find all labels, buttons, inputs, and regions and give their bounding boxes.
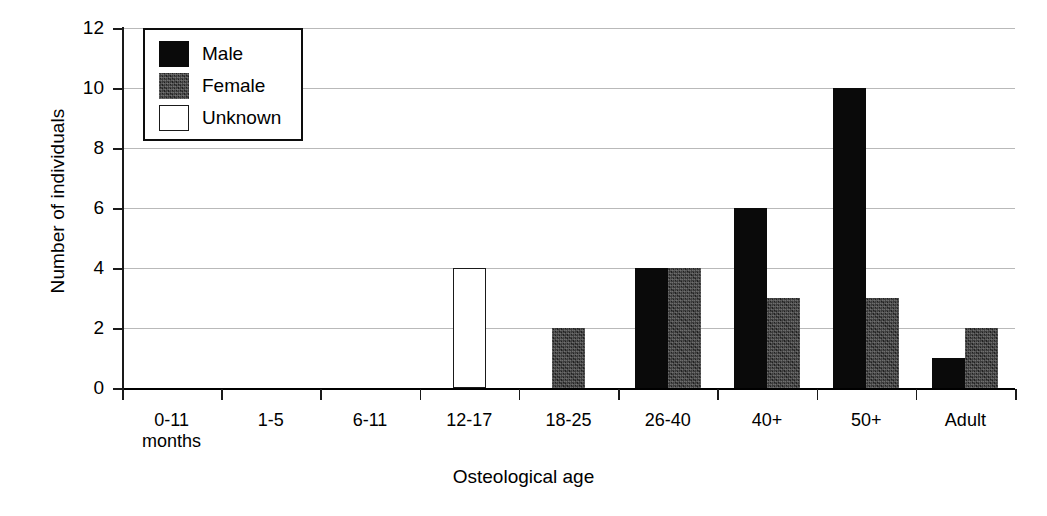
- bar-male: [635, 268, 668, 388]
- bar-female: [866, 298, 899, 388]
- bar-female: [965, 328, 998, 388]
- y-axis-tick: [113, 208, 124, 210]
- y-axis-tick-label: 0: [44, 378, 104, 397]
- y-axis-tick: [113, 328, 124, 330]
- legend-swatch-male-icon: [159, 41, 189, 67]
- y-axis-tick: [113, 88, 124, 90]
- x-axis-tick-label: Adult: [905, 410, 1025, 431]
- bar-chart: Number of individuals 024681012 0-11mont…: [0, 0, 1047, 516]
- x-axis-tick: [420, 389, 422, 400]
- legend-label-male: Male: [202, 44, 243, 63]
- x-axis-tick: [221, 389, 223, 400]
- legend-label-unknown: Unknown: [202, 108, 281, 127]
- legend-entry-female: Female: [159, 70, 265, 101]
- legend-label-female: Female: [202, 76, 265, 95]
- y-axis-tick-label: 12: [44, 18, 104, 37]
- x-axis-tick: [320, 389, 322, 400]
- gridline: [122, 268, 1015, 269]
- x-axis-tick-label-line: Adult: [905, 410, 1025, 431]
- y-axis-tick-label: 2: [44, 318, 104, 337]
- gridline: [122, 148, 1015, 149]
- y-axis-tick-label: 10: [44, 78, 104, 97]
- bar-male: [734, 208, 767, 388]
- y-axis-tick-label: 6: [44, 198, 104, 217]
- x-axis-tick-label-line: months: [112, 431, 232, 452]
- gridline: [122, 208, 1015, 209]
- y-axis-tick-label: 8: [44, 138, 104, 157]
- bar-male: [932, 358, 965, 388]
- x-axis-title: Osteological age: [0, 466, 1047, 488]
- x-axis-tick: [817, 389, 819, 400]
- y-axis-tick: [113, 148, 124, 150]
- bar-female: [552, 328, 585, 388]
- y-axis-tick: [113, 28, 124, 30]
- x-axis-tick: [717, 389, 719, 400]
- legend-entry-unknown: Unknown: [159, 102, 281, 133]
- x-axis-tick: [1015, 389, 1017, 400]
- x-axis-tick: [519, 389, 521, 400]
- x-axis-baseline: [122, 388, 1015, 390]
- x-axis-tick: [618, 389, 620, 400]
- bar-unknown: [453, 268, 486, 388]
- bar-male: [833, 88, 866, 388]
- legend-swatch-unknown-icon: [159, 105, 189, 131]
- legend: Male Female Unknown: [143, 28, 303, 141]
- bar-female: [668, 268, 701, 388]
- x-axis-tick: [122, 389, 124, 400]
- y-axis-tick: [113, 268, 124, 270]
- y-axis-tick-label: 4: [44, 258, 104, 277]
- bar-female: [767, 298, 800, 388]
- legend-swatch-female-icon: [159, 73, 189, 99]
- x-axis-tick: [916, 389, 918, 400]
- legend-entry-male: Male: [159, 38, 243, 69]
